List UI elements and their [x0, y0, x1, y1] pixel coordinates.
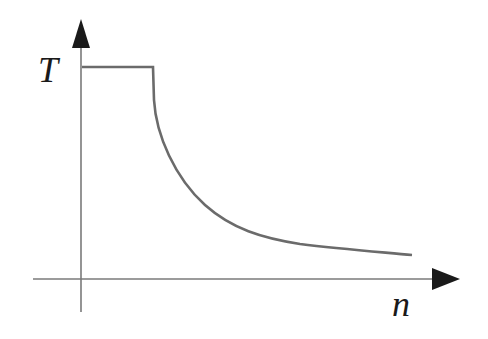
- y-axis-arrow-icon: [72, 19, 90, 48]
- diagram-canvas: T n: [0, 0, 488, 339]
- y-axis-label: T: [38, 50, 61, 90]
- x-axis-label: n: [392, 284, 410, 324]
- y-axis: [72, 19, 90, 312]
- x-axis-arrow-icon: [432, 268, 460, 290]
- t-of-n-curve: [82, 67, 412, 255]
